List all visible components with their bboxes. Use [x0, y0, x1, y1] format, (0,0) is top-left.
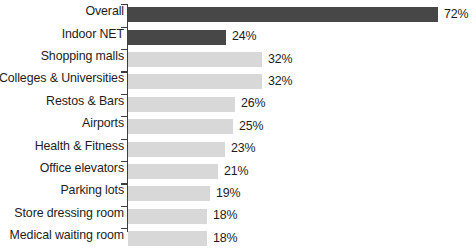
bar	[128, 186, 210, 201]
bar	[128, 142, 225, 157]
axis-tick	[121, 27, 128, 28]
bar-row: Shopping malls32%	[0, 49, 476, 71]
axis-tick	[121, 206, 128, 207]
category-label: Restos & Bars	[0, 94, 124, 110]
bar	[128, 164, 218, 179]
bar-value-label: 18%	[213, 231, 238, 247]
bar-row: Store dressing room18%	[0, 206, 476, 228]
bar	[128, 209, 207, 224]
bar-value-label: 19%	[216, 186, 241, 202]
axis-tick	[121, 49, 128, 50]
bar	[128, 74, 262, 89]
bar	[128, 30, 226, 45]
category-label: Medical waiting room	[0, 228, 124, 244]
category-label: Colleges & Universities	[0, 71, 124, 87]
bar-value-label: 32%	[268, 74, 293, 90]
bar-row: Health & Fitness23%	[0, 139, 476, 161]
category-label: Health & Fitness	[0, 139, 124, 155]
bar-value-label: 32%	[268, 52, 293, 68]
axis-tick	[121, 94, 128, 95]
bar	[128, 97, 235, 112]
axis-tick	[121, 183, 128, 184]
bar	[128, 52, 262, 67]
bar-row: Overall72%	[0, 4, 476, 26]
bar-value-label: 23%	[231, 141, 256, 157]
axis-tick	[121, 71, 128, 72]
bar-row: Parking lots19%	[0, 183, 476, 205]
bar	[128, 7, 438, 22]
bar-value-label: 18%	[213, 208, 238, 224]
category-label: Overall	[0, 4, 124, 20]
category-label: Indoor NET	[0, 27, 124, 43]
category-label: Store dressing room	[0, 206, 124, 222]
bar-row: Medical waiting room18%	[0, 228, 476, 250]
category-label: Shopping malls	[0, 49, 124, 65]
bar	[128, 119, 233, 134]
bar-value-label: 72%	[444, 7, 469, 23]
bar-row: Office elevators21%	[0, 161, 476, 183]
category-label: Parking lots	[0, 183, 124, 199]
category-label: Office elevators	[0, 161, 124, 177]
axis-tick	[121, 161, 128, 162]
bar-value-label: 25%	[239, 119, 264, 135]
bar-row: Indoor NET24%	[0, 27, 476, 49]
bar-value-label: 21%	[224, 164, 249, 180]
category-label: Airports	[0, 116, 124, 132]
bar-value-label: 26%	[241, 96, 266, 112]
axis-tick	[121, 116, 128, 117]
bar	[128, 231, 207, 246]
axis-tick	[121, 139, 128, 140]
bar-row: Airports25%	[0, 116, 476, 138]
bar-row: Restos & Bars26%	[0, 94, 476, 116]
axis-tick	[121, 4, 128, 5]
axis-tick	[121, 228, 128, 229]
bar-value-label: 24%	[232, 29, 257, 45]
bar-row: Colleges & Universities32%	[0, 71, 476, 93]
